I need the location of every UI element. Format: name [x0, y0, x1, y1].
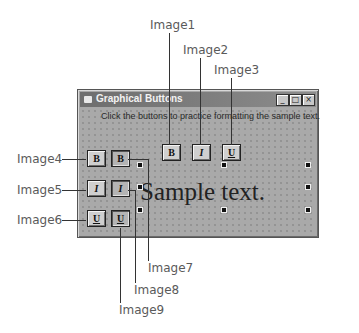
selection-handle[interactable]: [305, 207, 311, 213]
italic-button-image2[interactable]: I: [192, 144, 211, 161]
selection-handle[interactable]: [221, 162, 227, 168]
leader-line: [128, 159, 149, 160]
selection-handle[interactable]: [221, 207, 227, 213]
maximize-button[interactable]: □: [289, 94, 302, 106]
italic-button-image8[interactable]: I: [111, 180, 130, 197]
bold-button-image1[interactable]: B: [162, 144, 181, 161]
callout-image3: Image3: [214, 63, 259, 77]
leader-line: [135, 190, 136, 283]
callout-image2: Image2: [183, 43, 228, 57]
callout-image6: Image6: [17, 213, 62, 227]
leader-line: [200, 58, 201, 145]
callout-image7: Image7: [148, 261, 193, 275]
instruction-label: Click the buttons to practice formatting…: [101, 111, 320, 121]
bold-button-image4[interactable]: B: [87, 150, 106, 167]
callout-image8: Image8: [134, 283, 179, 297]
underline-button-image3[interactable]: U: [222, 144, 241, 161]
app-icon: [84, 96, 92, 103]
leader-line: [231, 78, 232, 145]
italic-button-image5[interactable]: I: [87, 180, 106, 197]
leader-line: [148, 159, 149, 261]
title-bar[interactable]: Graphical Buttons _ □ ×: [80, 92, 316, 107]
selection-handle[interactable]: [305, 162, 311, 168]
underline-button-image6[interactable]: U: [87, 210, 106, 227]
graphical-buttons-window: Graphical Buttons _ □ × Click the button…: [77, 89, 319, 238]
callout-image9: Image9: [119, 303, 164, 317]
leader-line: [62, 220, 86, 221]
selection-handle[interactable]: [137, 162, 143, 168]
leader-line: [62, 159, 86, 160]
sample-text-label[interactable]: Sample text.: [140, 178, 265, 206]
selection-handle[interactable]: [137, 207, 143, 213]
leader-line: [120, 228, 121, 303]
callout-image5: Image5: [17, 183, 62, 197]
close-button[interactable]: ×: [302, 94, 315, 106]
underline-button-image9[interactable]: U: [111, 210, 130, 227]
selection-handle[interactable]: [137, 184, 143, 190]
minimize-button[interactable]: _: [276, 94, 289, 106]
selection-handle[interactable]: [305, 184, 311, 190]
leader-line: [62, 190, 86, 191]
form-client-area: Click the buttons to practice formatting…: [80, 108, 316, 235]
callout-image1: Image1: [150, 18, 195, 32]
callout-image4: Image4: [17, 152, 62, 166]
leader-line: [169, 33, 170, 145]
